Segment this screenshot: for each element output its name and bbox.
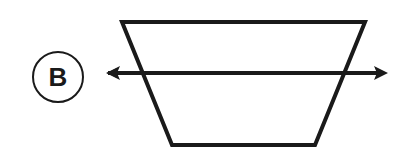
diagram-label: B	[49, 62, 68, 92]
diagram-svg: B	[0, 0, 406, 153]
trapezoid-shape	[122, 22, 365, 145]
diagram-canvas: B	[0, 0, 406, 153]
